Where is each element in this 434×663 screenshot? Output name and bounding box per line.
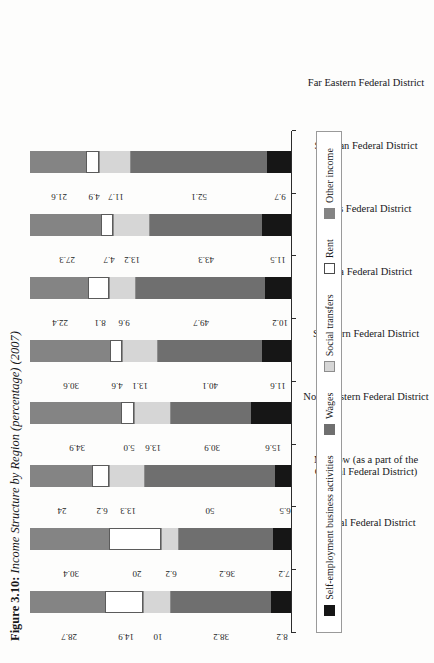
legend-label: Other income <box>324 148 335 203</box>
bar-value-label: 8.2 <box>262 632 302 642</box>
bar-value-label: 22.4 <box>40 318 80 328</box>
category-label-line: Urals Federal District <box>281 203 434 215</box>
bar-value-label: 28.7 <box>49 632 89 642</box>
category-label: Moscow (as a part of theCentral Federal … <box>281 454 434 478</box>
bar-segment <box>30 591 105 613</box>
legend-swatch <box>324 263 335 274</box>
bar-segment <box>262 214 292 236</box>
bar-segment <box>30 214 101 236</box>
category-label-line: Far Eastern Federal District <box>281 77 434 89</box>
bar-segment <box>150 214 263 236</box>
plot-area: 8.238.21014.928.77.236.26.22030.46.55013… <box>30 131 292 633</box>
bar-segment <box>134 402 171 424</box>
bar-segment <box>30 465 92 487</box>
bar-value-label: 30.9 <box>192 443 232 453</box>
bar-value-label: 8.1 <box>80 318 120 328</box>
bar-column <box>30 528 292 550</box>
bar-segment <box>30 402 121 424</box>
bar-segment <box>122 340 158 362</box>
bar-value-label: 24 <box>42 506 82 516</box>
bar-segment <box>273 528 292 550</box>
bar-value-label: 20 <box>117 569 157 579</box>
bar-value-label: 36.2 <box>207 569 247 579</box>
category-label-line: Southern Federal District <box>281 328 434 340</box>
category-label-line: Central Federal District) <box>281 466 434 478</box>
bar-column <box>30 214 292 236</box>
bar-value-label: 4.7 <box>89 255 129 265</box>
category-label: Urals Federal District <box>281 203 434 215</box>
bar-value-label: 30.4 <box>51 569 91 579</box>
legend-label: Wages <box>324 393 335 419</box>
bar-column <box>30 340 292 362</box>
bar-segment <box>121 402 134 424</box>
bar-value-label: 49.7 <box>181 318 221 328</box>
legend-label: Social transfers <box>324 294 335 356</box>
bar-segment <box>113 214 149 236</box>
legend-item[interactable]: Other income <box>324 148 335 219</box>
bar-segment <box>88 277 109 299</box>
bar-value-label: 6.2 <box>151 569 191 579</box>
bar-value-label: 52.1 <box>179 192 219 202</box>
category-label: Northwestern Federal District <box>281 391 434 403</box>
bar-value-label: 50 <box>190 506 230 516</box>
category-label: Volga Federal District <box>281 266 434 278</box>
category-label-line: Moscow (as a part of the <box>281 454 434 466</box>
bar-value-label: 10.2 <box>260 318 300 328</box>
bar-segment <box>136 277 265 299</box>
bar-segment <box>99 151 131 173</box>
bar-value-label: 5.0 <box>109 443 149 453</box>
category-label: Far Eastern Federal District <box>281 77 434 89</box>
legend-swatch <box>324 424 335 435</box>
bar-segment <box>271 591 292 613</box>
legend-item[interactable]: Wages <box>324 393 335 435</box>
bar-value-label: 43.3 <box>186 255 226 265</box>
bar-segment <box>179 528 273 550</box>
bar-segment <box>30 340 110 362</box>
bar-segment <box>101 214 113 236</box>
bar-segment <box>110 340 122 362</box>
bar-value-label: 21.6 <box>39 192 79 202</box>
figure-title: Figure 3.10: Income Structure by Region … <box>8 331 23 641</box>
bar-segment <box>265 277 292 299</box>
bar-value-label: 4.6 <box>97 381 137 391</box>
figure-caption: Income Structure by Region (percentage) … <box>8 331 22 573</box>
bar-segment <box>158 340 262 362</box>
category-label: Siberian Federal District <box>281 140 434 152</box>
category-label-line: Northwestern Federal District <box>281 391 434 403</box>
category-label-line: Siberian Federal District <box>281 140 434 152</box>
bar-segment <box>131 151 266 173</box>
bar-segment <box>145 465 275 487</box>
category-label: Central Federal District <box>281 517 434 529</box>
bar-segment <box>30 151 86 173</box>
bar-segment <box>109 528 161 550</box>
bar-segment <box>105 591 144 613</box>
bar-value-label: 30.6 <box>51 381 91 391</box>
bar-segment <box>267 151 292 173</box>
legend-swatch <box>324 605 335 616</box>
category-label: Southern Federal District <box>281 328 434 340</box>
figure-number: Figure 3.10: <box>8 577 22 641</box>
bar-value-label: 4.9 <box>74 192 114 202</box>
category-label-line: Central Federal District <box>281 517 434 529</box>
legend-item[interactable]: Self-employment business activities <box>324 455 335 615</box>
bar-segment <box>171 402 251 424</box>
category-label-line: Volga Federal District <box>281 266 434 278</box>
bar-segment <box>109 465 146 487</box>
bar-column <box>30 402 292 424</box>
bar-column <box>30 277 292 299</box>
bar-value-label: 38.2 <box>201 632 241 642</box>
bar-segment <box>171 591 270 613</box>
legend-label: Self-employment business activities <box>324 455 335 599</box>
bar-segment <box>262 340 292 362</box>
bar-value-label: 15.6 <box>253 443 293 453</box>
bar-group: 8.238.21014.928.77.236.26.22030.46.55013… <box>30 131 292 633</box>
bar-value-label: 9.7 <box>260 192 300 202</box>
legend-swatch <box>324 208 335 219</box>
legend-item[interactable]: Rent <box>324 239 335 274</box>
legend-item[interactable]: Social transfers <box>324 294 335 372</box>
bar-segment <box>92 465 108 487</box>
legend-swatch <box>324 361 335 372</box>
bar-segment <box>86 151 99 173</box>
bar-segment <box>30 528 109 550</box>
